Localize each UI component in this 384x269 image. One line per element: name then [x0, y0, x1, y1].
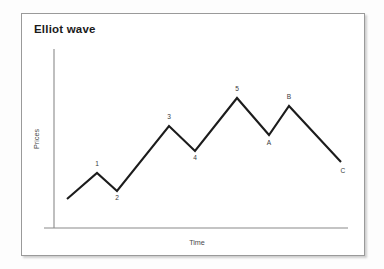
chart-plot-area: Prices Time 1 2 3 4 5 A B C	[22, 14, 366, 257]
wave-point-label-1: 1	[95, 160, 99, 167]
elliott-wave-line	[67, 98, 341, 199]
figure-frame: Elliot wave Prices Time 1 2 3 4 5 A B C	[21, 13, 365, 256]
wave-point-label-4: 4	[193, 154, 197, 161]
x-axis-title: Time	[189, 238, 205, 247]
y-axis-title: Prices	[32, 129, 41, 149]
wave-point-label-3: 3	[167, 113, 171, 120]
wave-point-label-2: 2	[115, 194, 119, 201]
wave-point-label-b: B	[287, 93, 292, 100]
page-background: Elliot wave Prices Time 1 2 3 4 5 A B C	[0, 0, 384, 269]
wave-point-label-5: 5	[235, 85, 239, 92]
wave-point-label-a: A	[267, 139, 272, 146]
wave-point-label-c: C	[341, 167, 346, 174]
